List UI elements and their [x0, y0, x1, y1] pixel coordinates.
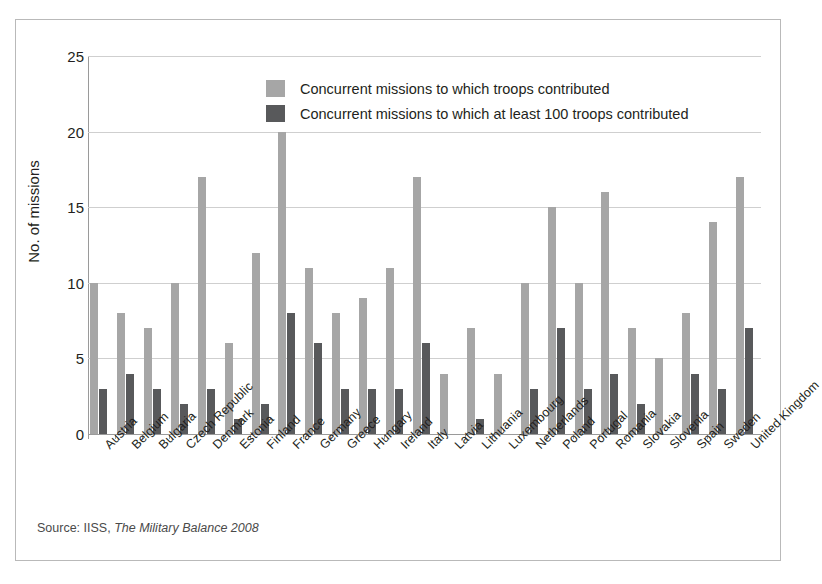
- bar: [90, 283, 98, 434]
- bar: [386, 268, 394, 434]
- bar-group: [115, 56, 142, 434]
- y-tick-label: 25: [44, 48, 84, 65]
- bar-group: [734, 56, 761, 434]
- y-tick-label: 10: [44, 274, 84, 291]
- source-prefix: Source: IISS,: [37, 521, 114, 535]
- bar: [601, 192, 609, 434]
- source-note: Source: IISS, The Military Balance 2008: [37, 521, 259, 535]
- bar-group: [196, 56, 223, 434]
- source-title: The Military Balance 2008: [114, 521, 259, 535]
- legend-label: Concurrent missions to which at least 10…: [300, 106, 688, 122]
- bar: [413, 177, 421, 434]
- legend-swatch-light: [266, 80, 285, 97]
- bar: [332, 313, 340, 434]
- bar: [682, 313, 690, 434]
- bar-group: [142, 56, 169, 434]
- bar: [171, 283, 179, 434]
- y-tick-label: 0: [44, 426, 84, 443]
- bar: [278, 132, 286, 434]
- chart-figure: No. of missions 0510152025 AustriaBelgiu…: [15, 19, 781, 561]
- legend-swatch-dark: [266, 105, 285, 122]
- bar-group: [88, 56, 115, 434]
- bar: [736, 177, 744, 434]
- bar: [252, 253, 260, 434]
- bar: [709, 222, 717, 434]
- legend-label: Concurrent missions to which troops cont…: [300, 81, 609, 97]
- y-axis-ticks: 0510152025: [36, 56, 84, 434]
- bar: [99, 389, 107, 434]
- bar: [144, 328, 152, 434]
- y-tick-label: 5: [44, 350, 84, 367]
- y-tick-label: 15: [44, 199, 84, 216]
- legend-item: Concurrent missions to which troops cont…: [266, 76, 688, 101]
- bar-group: [223, 56, 250, 434]
- x-tick-mark: [88, 434, 89, 439]
- bar-group: [169, 56, 196, 434]
- legend-item: Concurrent missions to which at least 10…: [266, 101, 688, 126]
- y-tick-label: 20: [44, 123, 84, 140]
- bar: [117, 313, 125, 434]
- chart-legend: Concurrent missions to which troops cont…: [266, 76, 688, 126]
- bar: [467, 328, 475, 434]
- bar: [305, 268, 313, 434]
- bar: [198, 177, 206, 434]
- bar-group: [707, 56, 734, 434]
